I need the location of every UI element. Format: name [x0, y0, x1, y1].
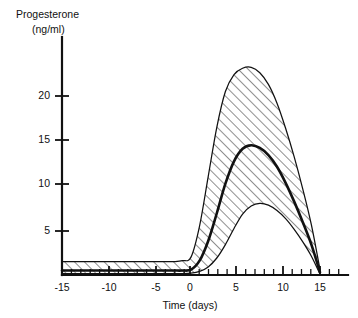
x-tick-label-10: 10 [277, 281, 289, 293]
x-tick-label-n5: -5 [151, 281, 160, 293]
plot-area [62, 67, 320, 274]
y-tick-label-20: 20 [38, 89, 50, 101]
y-axis-title-line2: (ng/ml) [32, 23, 65, 35]
x-axis-title: Time (days) [162, 299, 217, 311]
x-tick-label-5: 5 [233, 281, 239, 293]
y-tick-label-5: 5 [44, 224, 50, 236]
x-tick-label-n10: -10 [101, 281, 116, 293]
progesterone-chart: Progesterone (ng/ml) 20 15 10 5 [0, 0, 358, 318]
x-tick-label-0: 0 [187, 281, 193, 293]
x-tick-label-n15: -15 [54, 281, 69, 293]
y-axis-title-line1: Progesterone [16, 8, 79, 20]
y-axis: 20 15 10 5 [38, 37, 69, 275]
y-tick-label-10: 10 [38, 177, 50, 189]
y-tick-label-15: 15 [38, 133, 50, 145]
x-tick-label-15: 15 [314, 281, 326, 293]
chart-canvas: Progesterone (ng/ml) 20 15 10 5 [0, 0, 358, 318]
range-band-fill [62, 67, 320, 274]
